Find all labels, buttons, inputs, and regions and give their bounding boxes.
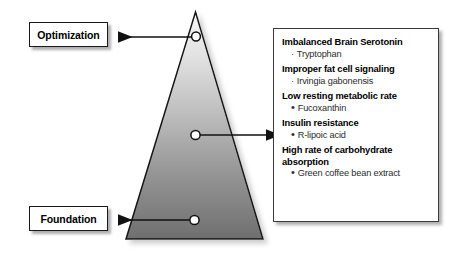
label-optimization-text: Optimization <box>37 29 99 41</box>
condition-group: High rate of carbohydrate absorption•Gre… <box>282 144 432 180</box>
condition-title: Imbalanced Brain Serotonin <box>282 36 432 48</box>
label-box-foundation: Foundation <box>29 206 108 231</box>
condition-group: Imbalanced Brain Serotonin·Tryptophan <box>282 36 432 60</box>
bullet-icon: • <box>291 130 295 139</box>
condition-title: High rate of carbohydrate absorption <box>282 144 432 167</box>
base-marker <box>190 215 199 224</box>
condition-list: Imbalanced Brain Serotonin·TryptophanImp… <box>282 36 432 180</box>
condition-item: •R-lipoic acid <box>282 129 432 141</box>
condition-item: •Green coffee bean extract <box>282 167 432 179</box>
condition-title: Low resting metabolic rate <box>282 90 432 102</box>
condition-title: Insulin resistance <box>282 117 432 129</box>
condition-item: ·Irvingia gabonensis <box>282 75 432 87</box>
label-foundation-text: Foundation <box>40 213 96 225</box>
bullet-icon: · <box>291 75 294 87</box>
condition-group: Improper fat cell signaling·Irvingia gab… <box>282 63 432 87</box>
diagram-canvas: Optimization Foundation Imbalanced Brain… <box>0 0 467 259</box>
condition-item-label: Fucoxanthin <box>298 102 346 114</box>
details-panel: Imbalanced Brain Serotonin·TryptophanImp… <box>273 28 439 222</box>
condition-item: ·Tryptophan <box>282 48 432 60</box>
pyramid-shape <box>126 12 263 239</box>
condition-item: •Fucoxanthin <box>282 102 432 114</box>
middle-marker <box>191 130 200 139</box>
condition-item-label: Tryptophan <box>297 48 342 60</box>
label-box-optimization: Optimization <box>29 22 108 47</box>
apex-marker <box>192 32 201 41</box>
condition-group: Insulin resistance•R-lipoic acid <box>282 117 432 141</box>
condition-title: Improper fat cell signaling <box>282 63 432 75</box>
condition-item-label: Irvingia gabonensis <box>297 75 373 87</box>
condition-item-label: R-lipoic acid <box>298 129 346 141</box>
condition-item-label: Green coffee bean extract <box>298 167 400 179</box>
bullet-icon: · <box>291 48 294 60</box>
bullet-icon: • <box>291 168 295 177</box>
bullet-icon: • <box>291 103 295 112</box>
condition-group: Low resting metabolic rate•Fucoxanthin <box>282 90 432 114</box>
